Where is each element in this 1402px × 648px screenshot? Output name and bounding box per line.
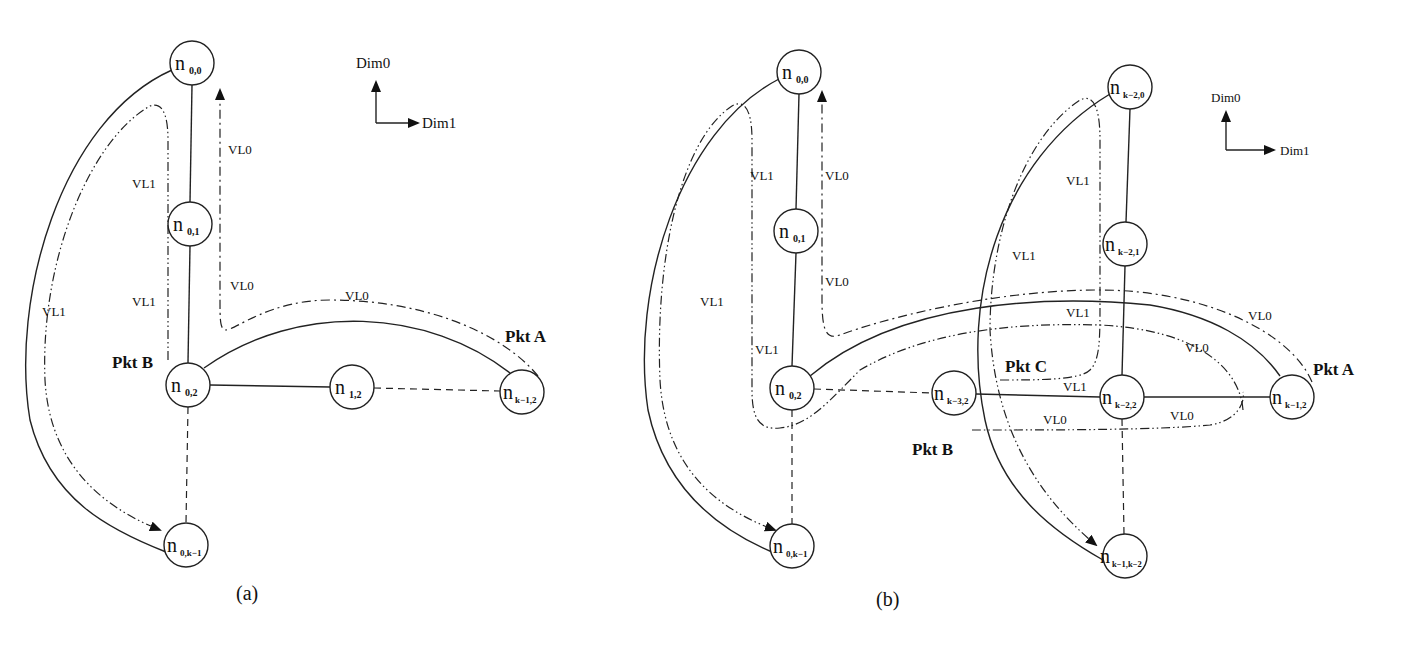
dim1-label: Dim1	[422, 115, 456, 131]
svg-text:1,2: 1,2	[349, 389, 362, 400]
svg-text:n: n	[1110, 76, 1120, 98]
vl-label: VL0	[1170, 408, 1194, 423]
panel-caption-a: (a)	[236, 582, 258, 605]
svg-text:0,0: 0,0	[796, 74, 809, 85]
svg-text:n: n	[779, 220, 789, 242]
vl-label: VL0	[228, 142, 252, 157]
pkt-a-route	[822, 92, 1312, 382]
vl-label: VL0	[825, 274, 849, 289]
node-n01: n 0,1	[168, 202, 212, 246]
link-n02-nk32	[814, 389, 932, 393]
node-n02: n 0,2	[166, 363, 210, 407]
pkt-a-route	[220, 90, 538, 376]
svg-text:n: n	[773, 535, 783, 557]
svg-text:n: n	[1272, 386, 1282, 408]
svg-text:0,k−1: 0,k−1	[180, 548, 202, 558]
vl-label: VL1	[1063, 379, 1087, 394]
node-n0k1: n 0,k−1	[770, 524, 814, 568]
svg-text:n: n	[173, 213, 183, 235]
axes-indicator-b: Dim0 Dim1	[1211, 90, 1310, 158]
node-nk32: n k−3,2	[932, 371, 976, 415]
link-n00-n01	[796, 94, 799, 209]
link-n01-n02	[188, 246, 190, 363]
packet-label-a: Pkt A	[1313, 360, 1355, 379]
svg-text:0,2: 0,2	[185, 387, 198, 398]
svg-text:k−2,0: k−2,0	[1123, 90, 1145, 100]
node-nk12: n k−1,2	[1270, 375, 1314, 419]
packet-label-c: Pkt C	[1005, 357, 1047, 376]
link-nk22-nk1k2	[1122, 419, 1124, 534]
link-n00-n01	[190, 85, 192, 202]
link-nk21-nk22	[1122, 266, 1125, 375]
node-n12: n 1,2	[330, 365, 374, 409]
svg-text:n: n	[934, 382, 944, 404]
link-nk32-nk22	[976, 394, 1100, 397]
svg-text:n: n	[335, 376, 345, 398]
vl-label: VL0	[230, 278, 254, 293]
node-n01: n 0,1	[774, 209, 818, 253]
vl-label: VL1	[750, 168, 774, 183]
node-n02: n 0,2	[770, 366, 814, 410]
dim0-label: Dim0	[356, 55, 390, 71]
svg-text:n: n	[782, 61, 792, 83]
pkt-b-route-dim0	[659, 104, 1243, 530]
axes-indicator-a: Dim0 Dim1	[356, 55, 456, 131]
vl-label: VL1	[700, 294, 724, 309]
vl-label: VL0	[1248, 308, 1272, 323]
dim1-label: Dim1	[1280, 143, 1310, 158]
panel-caption-b: (b)	[876, 588, 899, 611]
svg-text:n: n	[175, 52, 185, 74]
vl-label: VL0	[345, 288, 369, 303]
vl-label: VL1	[132, 294, 156, 309]
packet-label-b: Pkt B	[112, 353, 153, 372]
vl-label: VL0	[825, 168, 849, 183]
packet-label-b: Pkt B	[912, 440, 953, 459]
svg-text:n: n	[775, 377, 785, 399]
panel-b: Dim0 Dim1 VL1 VL0 VL0 VL1 VL1 VL1	[644, 50, 1354, 611]
vl-label: VL1	[132, 176, 156, 191]
svg-text:k−2,1: k−2,1	[1118, 247, 1140, 257]
svg-text:k−2,2: k−2,2	[1115, 400, 1137, 410]
vl-label: VL1	[1066, 305, 1090, 320]
packet-label-a: Pkt A	[505, 327, 547, 346]
figure-canvas: Dim0 Dim1 VL0 VL1 VL0 VL1 VL1 VL0 Pkt A …	[0, 0, 1402, 648]
node-n00: n 0,0	[777, 50, 821, 94]
svg-text:k−1,2: k−1,2	[515, 395, 537, 405]
svg-text:k−3,2: k−3,2	[947, 396, 969, 406]
svg-text:n: n	[1100, 545, 1110, 567]
svg-text:n: n	[503, 381, 513, 403]
node-nk22: n k−2,2	[1100, 375, 1144, 419]
svg-text:0,1: 0,1	[187, 226, 200, 237]
link-nk20-nk21	[1126, 109, 1130, 222]
svg-text:0,1: 0,1	[793, 233, 806, 244]
node-nk20: n k−2,0	[1108, 65, 1152, 109]
vl-label: VL0	[1043, 412, 1067, 427]
vl-label: VL1	[755, 342, 779, 357]
vl-label: VL1	[1012, 248, 1036, 263]
pkt-c-route	[990, 98, 1100, 545]
svg-text:n: n	[1105, 233, 1115, 255]
dim0-label: Dim0	[1211, 90, 1241, 105]
svg-text:k−1,2: k−1,2	[1285, 400, 1307, 410]
svg-text:0,0: 0,0	[189, 65, 202, 76]
svg-text:n: n	[171, 374, 181, 396]
panel-a: Dim0 Dim1 VL0 VL1 VL0 VL1 VL1 VL0 Pkt A …	[26, 41, 547, 605]
node-nk1k2: n k−1,k−2	[1100, 534, 1147, 578]
node-n00: n 0,0	[170, 41, 214, 85]
vl-label: VL1	[1066, 173, 1090, 188]
node-nk12: n k−1,2	[500, 370, 544, 414]
link-n02-n0k1	[186, 407, 188, 523]
link-n12-nk12	[374, 388, 500, 391]
vl-label: VL1	[42, 304, 66, 319]
node-nk21: n k−2,1	[1103, 222, 1147, 266]
link-n02-n12	[210, 385, 330, 387]
svg-text:0,k−1: 0,k−1	[786, 549, 808, 559]
vl-label: VL0	[1185, 340, 1209, 355]
link-n01-n02	[792, 253, 796, 366]
node-n0k1: n 0,k−1	[164, 523, 208, 567]
svg-text:0,2: 0,2	[789, 390, 802, 401]
svg-text:n: n	[167, 534, 177, 556]
svg-text:k−1,k−2: k−1,k−2	[1112, 559, 1142, 569]
svg-text:n: n	[1102, 386, 1112, 408]
wrap-n00-n0k1	[644, 79, 779, 552]
